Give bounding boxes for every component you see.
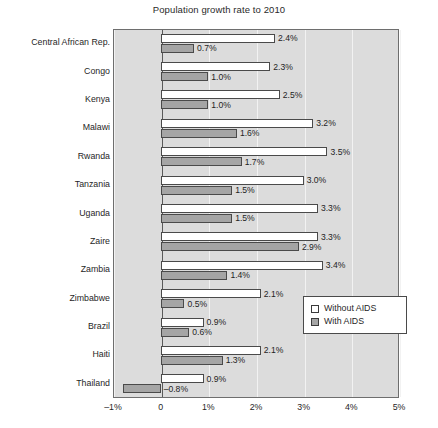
category-axis-labels: Central African Rep.CongoKenyaMalawiRwan…	[0, 29, 110, 398]
x-tick-label: 4%	[345, 402, 358, 412]
bar-value-label: 2.1%	[264, 290, 284, 299]
bar-value-label: –0.8%	[164, 385, 188, 394]
legend-swatch-without-aids-icon	[311, 305, 319, 313]
bar-value-label: 3.3%	[321, 233, 341, 242]
bar-value-label: 1.0%	[211, 73, 231, 82]
bar-value-label: 1.4%	[230, 271, 250, 280]
chart-title: Population growth rate to 2010	[0, 4, 438, 15]
bar-with-aids	[161, 157, 242, 166]
x-tick-label: 2%	[250, 402, 263, 412]
bar-with-aids	[161, 356, 223, 365]
bar-value-label: 3.3%	[321, 204, 341, 213]
bar-value-label: 1.5%	[235, 214, 255, 223]
bar-without-aids	[161, 176, 304, 185]
category-label: Malawi	[0, 122, 110, 132]
bar-value-label: 0.7%	[197, 44, 217, 53]
bar-rows: 2.4%0.7%2.3%1.0%2.5%1.0%3.2%1.6%3.5%1.7%…	[113, 29, 399, 398]
bar-value-label: 2.1%	[264, 346, 284, 355]
bar-value-label: 0.6%	[192, 328, 212, 337]
bar-value-label: 2.5%	[283, 91, 303, 100]
bar-value-label: 1.6%	[240, 129, 260, 138]
bar-with-aids	[161, 44, 194, 53]
bar-row: 2.3%1.0%	[113, 57, 399, 83]
category-label: Kenya	[0, 94, 110, 104]
bar-value-label: 3.2%	[316, 119, 336, 128]
bar-value-label: 1.5%	[235, 186, 255, 195]
bar-row: 3.3%2.9%	[113, 228, 399, 254]
bar-with-aids	[161, 299, 185, 308]
bar-without-aids	[161, 346, 261, 355]
bar-row: 3.2%1.6%	[113, 114, 399, 140]
gridline-5	[400, 30, 401, 397]
bar-with-aids	[161, 271, 228, 280]
bar-row: 3.5%1.7%	[113, 143, 399, 169]
bar-without-aids	[161, 90, 280, 99]
bar-without-aids	[161, 261, 323, 270]
legend-label-with-aids: With AIDS	[324, 315, 364, 328]
bar-value-label: 2.9%	[302, 243, 322, 252]
bar-without-aids	[161, 119, 314, 128]
bar-value-label: 1.7%	[245, 158, 265, 167]
x-tick-label: 5%	[393, 402, 406, 412]
bar-row: 2.5%1.0%	[113, 86, 399, 112]
bar-value-label: 0.5%	[188, 300, 208, 309]
bar-value-label: 2.3%	[273, 63, 293, 72]
bar-with-aids	[161, 186, 233, 195]
legend-item-with-aids: With AIDS	[311, 315, 399, 328]
bar-with-aids	[161, 129, 237, 138]
category-label: Haiti	[0, 349, 110, 359]
population-growth-chart: Population growth rate to 2010 Central A…	[0, 0, 438, 428]
category-label: Rwanda	[0, 151, 110, 161]
bar-without-aids	[161, 204, 318, 213]
legend-item-without-aids: Without AIDS	[311, 302, 399, 315]
category-label: Congo	[0, 66, 110, 76]
bar-row: 0.9%–0.8%	[113, 370, 399, 396]
bar-with-aids	[123, 384, 161, 393]
legend-swatch-with-aids-icon	[311, 318, 319, 326]
bar-value-label: 1.3%	[226, 356, 246, 365]
bar-row: 2.1%1.3%	[113, 341, 399, 367]
bar-value-label: 3.4%	[326, 261, 346, 270]
bar-with-aids	[161, 72, 209, 81]
bar-without-aids	[161, 34, 275, 43]
category-label: Brazil	[0, 321, 110, 331]
legend-label-without-aids: Without AIDS	[324, 302, 376, 315]
bar-without-aids	[161, 232, 318, 241]
bar-with-aids	[161, 328, 190, 337]
bar-value-label: 3.5%	[331, 148, 351, 157]
bar-without-aids	[161, 147, 328, 156]
bar-value-label: 2.4%	[278, 34, 298, 43]
x-tick-label: 0	[158, 402, 163, 412]
category-label: Central African Rep.	[0, 37, 110, 47]
category-label: Uganda	[0, 208, 110, 218]
bar-value-label: 3.0%	[307, 176, 327, 185]
category-label: Zambia	[0, 264, 110, 274]
chart-legend: Without AIDS With AIDS	[303, 296, 407, 334]
category-label: Thailand	[0, 378, 110, 388]
x-tick-label: –1%	[104, 402, 122, 412]
bar-value-label: 1.0%	[211, 101, 231, 110]
category-label: Zimbabwe	[0, 293, 110, 303]
bar-without-aids	[161, 318, 204, 327]
x-tick-label: 3%	[297, 402, 310, 412]
bar-value-label: 0.9%	[207, 318, 227, 327]
category-label: Zaire	[0, 236, 110, 246]
bar-row: 3.0%1.5%	[113, 171, 399, 197]
bar-value-label: 0.9%	[207, 375, 227, 384]
bar-row: 2.4%0.7%	[113, 29, 399, 55]
category-label: Tanzania	[0, 179, 110, 189]
bar-without-aids	[161, 62, 271, 71]
bar-with-aids	[161, 214, 233, 223]
x-tick-label: 1%	[202, 402, 215, 412]
bar-without-aids	[161, 289, 261, 298]
bar-without-aids	[161, 374, 204, 383]
x-axis: –1%01%2%3%4%5%	[113, 400, 399, 420]
bar-with-aids	[161, 100, 209, 109]
bar-with-aids	[161, 242, 299, 251]
bar-row: 3.4%1.4%	[113, 256, 399, 282]
bar-row: 3.3%1.5%	[113, 199, 399, 225]
